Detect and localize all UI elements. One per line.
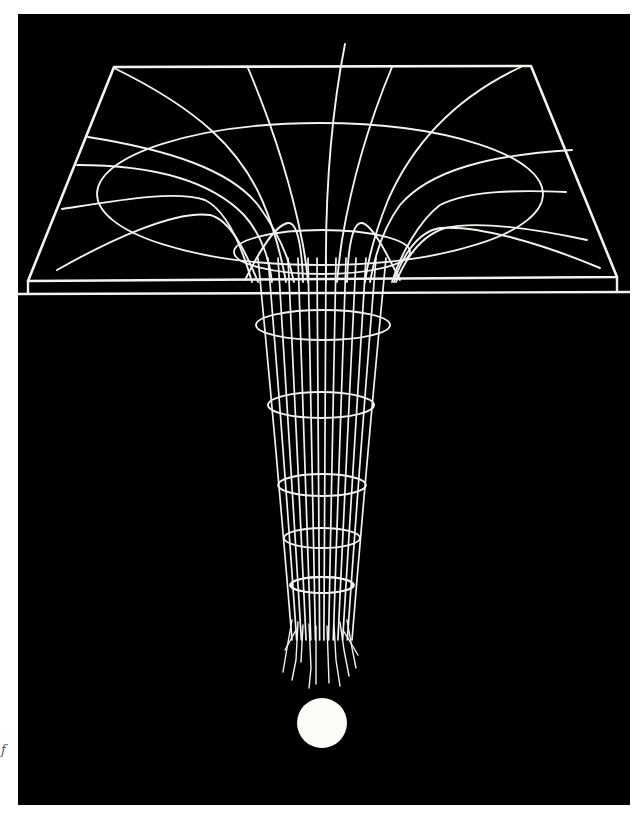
black-background-panel [18, 14, 630, 805]
wireframe-gravity-well-figure [0, 0, 637, 817]
margin-mark: f [1, 742, 6, 757]
central-mass-sphere [297, 698, 347, 748]
